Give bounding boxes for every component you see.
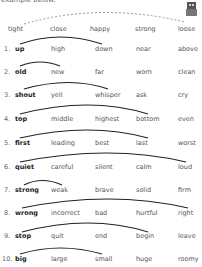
arc-row-8	[22, 199, 188, 208]
option-word: yell	[51, 91, 62, 99]
key-word: first	[15, 139, 30, 147]
key-word: old	[15, 68, 26, 76]
option-word: solid	[136, 186, 151, 194]
key-word: strong	[15, 186, 39, 194]
option-word: brave	[95, 186, 114, 194]
arc-row-3	[24, 83, 108, 90]
question-row-4: 4. top middle highest bottom even	[0, 115, 202, 127]
question-row-1: 1. up high down near above	[0, 45, 202, 57]
key-word: stop	[15, 232, 31, 240]
option-word: worst	[178, 139, 196, 147]
option-word: calm	[136, 163, 152, 171]
option-word: weak	[51, 186, 68, 194]
arc-row-6	[20, 153, 186, 162]
question-number: 9.	[4, 232, 10, 240]
key-word: top	[15, 115, 27, 123]
option-word: whisper	[95, 91, 120, 99]
question-number: 8.	[4, 209, 10, 217]
example-word: close	[50, 25, 67, 33]
arc-row-10	[20, 248, 102, 254]
question-number: 10.	[2, 255, 12, 263]
option-word: clean	[178, 68, 195, 76]
example-word: loose	[178, 25, 195, 33]
example-row: tight close happy strong loose	[0, 25, 202, 37]
question-row-8: 8. wrong incorrect bad hurtful right	[0, 209, 202, 221]
question-number: 2.	[4, 68, 10, 76]
mascot-illustration-icon	[183, 0, 199, 18]
option-word: high	[51, 45, 65, 53]
option-word: loud	[178, 163, 192, 171]
option-word: huge	[136, 255, 152, 263]
arc-row-7	[24, 181, 62, 186]
key-word: wrong	[15, 209, 38, 217]
example-dashed-arc	[24, 12, 185, 24]
option-word: leave	[178, 232, 196, 240]
option-word: leading	[51, 139, 75, 147]
option-word: begin	[136, 232, 154, 240]
option-word: firm	[178, 186, 191, 194]
option-word: roomy	[178, 255, 199, 263]
option-word: ask	[136, 91, 147, 99]
option-word: silent	[95, 163, 113, 171]
option-word: highest	[95, 115, 119, 123]
question-row-2: 2. old new far worn clean	[0, 68, 202, 80]
option-word: down	[95, 45, 113, 53]
option-word: bad	[95, 209, 107, 217]
option-word: even	[178, 115, 194, 123]
example-word: strong	[135, 25, 156, 33]
question-row-6: 6. quiet careful silent calm loud	[0, 163, 202, 175]
option-word: best	[95, 139, 109, 147]
option-word: middle	[51, 115, 73, 123]
arc-row-9	[22, 223, 148, 232]
option-word: above	[178, 45, 198, 53]
option-word: bottom	[136, 115, 160, 123]
arc-row-5	[20, 130, 148, 138]
question-number: 1.	[4, 45, 10, 53]
option-word: cry	[178, 91, 188, 99]
arc-row-2	[20, 62, 60, 66]
question-row-10: 10. big large small huge roomy	[0, 255, 202, 267]
example-word: tight	[8, 25, 23, 33]
option-word: end	[95, 232, 107, 240]
option-word: last	[136, 139, 148, 147]
question-row-5: 5. first leading best last worst	[0, 139, 202, 151]
question-row-7: 7. strong weak brave solid firm	[0, 186, 202, 198]
question-number: 5.	[4, 139, 10, 147]
question-row-3: 3. shout yell whisper ask cry	[0, 91, 202, 103]
arc-row-1	[20, 37, 102, 44]
option-word: new	[51, 68, 64, 76]
option-word: near	[136, 45, 151, 53]
key-word: shout	[15, 91, 36, 99]
option-word: worn	[136, 68, 152, 76]
key-word: up	[15, 45, 24, 53]
option-word: right	[178, 209, 193, 217]
key-word: big	[15, 255, 27, 263]
arc-row-4	[20, 105, 148, 114]
option-word: far	[95, 68, 104, 76]
instructions-text: example below.	[1, 0, 56, 4]
question-number: 6.	[4, 163, 10, 171]
option-word: quit	[51, 232, 64, 240]
example-word: happy	[90, 25, 110, 33]
option-word: incorrect	[51, 209, 80, 217]
question-number: 7.	[4, 186, 10, 194]
option-word: small	[95, 255, 112, 263]
option-word: careful	[51, 163, 73, 171]
key-word: quiet	[15, 163, 34, 171]
question-row-9: 9. stop quit end begin leave	[0, 232, 202, 244]
question-number: 3.	[4, 91, 10, 99]
option-word: large	[51, 255, 67, 263]
option-word: hurtful	[136, 209, 158, 217]
question-number: 4.	[4, 115, 10, 123]
